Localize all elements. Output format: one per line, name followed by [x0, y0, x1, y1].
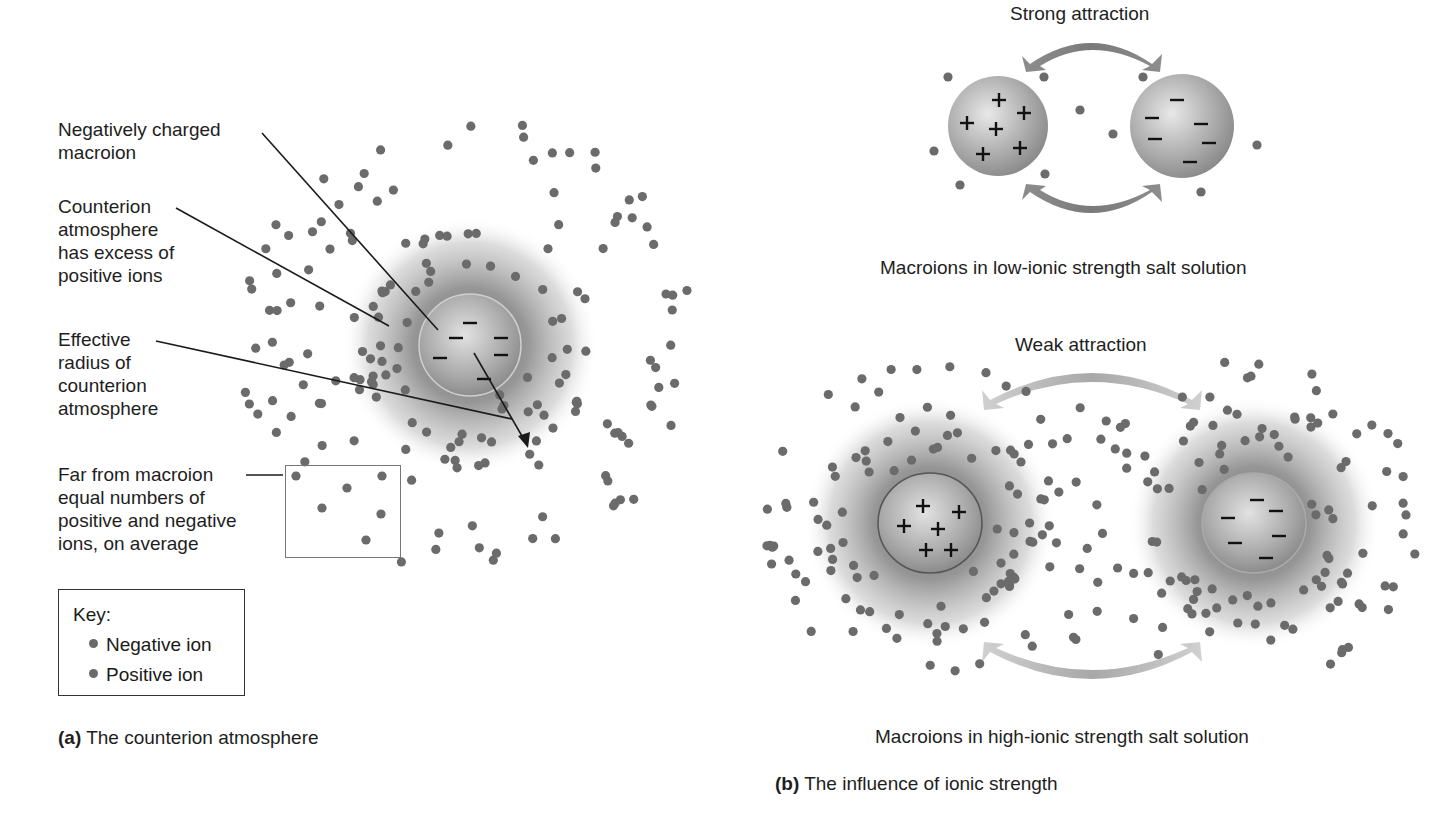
ion-dot	[355, 375, 364, 384]
ion-dot	[610, 429, 619, 438]
label-far-from-macroion: Far from macroion equal numbers of posit…	[58, 463, 237, 555]
ion-dot	[1028, 538, 1037, 547]
ion-dot	[1217, 441, 1226, 450]
ion-dot	[386, 280, 395, 289]
ion-dot	[666, 341, 675, 350]
ion-dot	[1116, 423, 1125, 432]
ion-dot	[765, 541, 774, 550]
ion-dot	[477, 433, 486, 442]
ion-dot	[946, 411, 955, 420]
ion-dot	[599, 244, 608, 253]
ion-dot	[991, 446, 1000, 455]
ion-dot	[1140, 452, 1149, 461]
positive-ion-icon	[89, 669, 98, 678]
ion-dot	[1253, 602, 1262, 611]
ion-dot	[1040, 495, 1049, 504]
ion-dot	[563, 345, 572, 354]
ion-dot	[923, 403, 932, 412]
ion-dot	[1334, 597, 1343, 606]
ion-dot	[1337, 648, 1346, 657]
ion-dot	[1190, 575, 1199, 584]
ion-dot	[1010, 574, 1019, 583]
ion-dot	[865, 467, 874, 476]
ion-dot	[1328, 409, 1337, 418]
ion-dot	[534, 460, 543, 469]
ion-dot	[895, 413, 904, 422]
ion-dot	[895, 610, 904, 619]
ion-dot	[1383, 429, 1392, 438]
ion-dot	[407, 476, 416, 485]
ion-dot	[1021, 630, 1030, 639]
ion-dot	[1166, 576, 1175, 585]
ion-dot	[315, 399, 324, 408]
ion-dot	[253, 409, 262, 418]
ion-dot	[422, 259, 431, 268]
weak-attraction-arrow-top	[982, 373, 1202, 410]
ion-dot	[912, 365, 921, 374]
ion-dot	[397, 557, 406, 566]
ion-dot	[1338, 579, 1347, 588]
ion-dot	[851, 402, 860, 411]
ion-dot	[408, 418, 417, 427]
ion-dot	[551, 534, 560, 543]
ion-dot	[911, 426, 920, 435]
ion-dot	[1143, 477, 1152, 486]
ion-dot	[1399, 472, 1408, 481]
ion-dot	[1313, 418, 1322, 427]
ion-dot	[782, 503, 791, 512]
ion-dot	[643, 222, 652, 231]
ion-dot	[401, 445, 410, 454]
ion-dot	[969, 567, 978, 576]
ion-dot	[628, 213, 637, 222]
ion-dot	[1093, 578, 1102, 587]
ion-dot	[1311, 510, 1320, 519]
ion-dot	[529, 156, 538, 165]
ion-dot	[261, 244, 270, 253]
ion-dot	[318, 441, 327, 450]
ion-dot	[1399, 499, 1408, 508]
ion-dot	[611, 499, 620, 508]
ion-dot	[980, 618, 989, 627]
ion-dot	[548, 317, 557, 326]
ion-dot	[1399, 529, 1408, 538]
ion-dot	[392, 364, 401, 373]
ion-dot	[572, 397, 581, 406]
ion-dot	[492, 549, 501, 558]
ion-dot	[1071, 635, 1080, 644]
ion-dot	[981, 368, 990, 377]
ion-dot	[649, 240, 658, 249]
ion-dot	[936, 602, 945, 611]
strong-attraction-arrow-top	[1022, 43, 1162, 72]
ion-dot	[376, 145, 385, 154]
ion-dot	[1410, 549, 1419, 558]
ion-dot	[533, 400, 542, 409]
ion-dot	[646, 400, 655, 409]
ion-dot	[325, 244, 334, 253]
ion-dot	[354, 182, 363, 191]
ion-dot	[525, 450, 534, 459]
ion-dot	[1158, 623, 1167, 632]
ion-dot	[1093, 607, 1102, 616]
ion-dot	[411, 287, 420, 296]
ion-dot	[625, 195, 634, 204]
ion-dot	[1343, 569, 1352, 578]
ion-dot	[945, 362, 954, 371]
ion-dot	[284, 231, 293, 240]
ion-dot	[767, 559, 776, 568]
ion-dot	[454, 437, 463, 446]
ion-dot	[601, 471, 610, 480]
ion-dot	[1052, 538, 1061, 547]
ion-dot	[1389, 582, 1398, 591]
ion-dot	[426, 267, 435, 276]
ion-dot	[590, 148, 599, 157]
ion-dot	[1228, 595, 1237, 604]
ion-dot	[303, 349, 312, 358]
ion-dot	[360, 169, 369, 178]
ion-dot	[440, 455, 449, 464]
ion-dot	[853, 573, 862, 582]
ion-dot	[1138, 72, 1147, 81]
ion-dot	[1048, 439, 1057, 448]
ion-dot	[443, 141, 452, 150]
ion-dot	[849, 627, 858, 636]
ion-dot	[286, 298, 295, 307]
